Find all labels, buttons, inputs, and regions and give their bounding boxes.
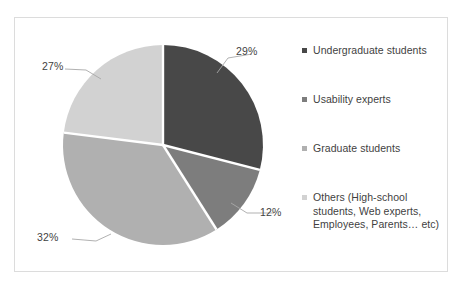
- legend-item-graduate-students[interactable]: Graduate students: [302, 142, 400, 156]
- legend-item-label: Usability experts: [313, 93, 391, 107]
- legend-item-others[interactable]: Others (High-school students, Web expert…: [302, 191, 444, 232]
- legend-swatch-icon: [302, 48, 307, 53]
- legend-item-label: Others (High-school students, Web expert…: [313, 191, 444, 232]
- pie-slice-others[interactable]: [64, 45, 163, 145]
- legend-item-usability-experts[interactable]: Usability experts: [302, 93, 391, 107]
- legend-item-undergraduate-students[interactable]: Undergraduate students: [302, 44, 427, 58]
- legend-swatch-icon: [302, 146, 307, 151]
- chart-screenshot: 29% 12% 32% 27% Undergraduate students U…: [0, 0, 464, 292]
- legend-item-label: Graduate students: [313, 142, 400, 156]
- legend-swatch-icon: [302, 97, 307, 102]
- pie-value-label-graduate-students: 32%: [37, 231, 58, 243]
- pie-chart-plot-area: 29% 12% 32% 27% Undergraduate students U…: [0, 0, 464, 292]
- legend-item-label: Undergraduate students: [313, 44, 427, 58]
- pie-value-label-undergraduate-students: 29%: [236, 45, 257, 57]
- leader-line-32: [72, 234, 111, 241]
- legend-swatch-icon: [302, 195, 307, 200]
- pie-value-label-others: 27%: [42, 60, 63, 72]
- pie-value-label-usability-experts: 12%: [260, 206, 281, 218]
